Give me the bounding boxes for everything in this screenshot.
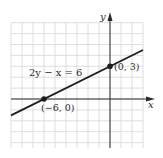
x-axis-label: x: [148, 99, 154, 110]
point-marker: [41, 96, 47, 102]
equation-label: 2y − x = 6: [29, 67, 83, 78]
grid-lines: [11, 23, 143, 148]
y-axis-label: y: [99, 11, 106, 22]
point-label: (−6, 0): [41, 102, 75, 113]
point-label: (0, 3): [114, 61, 140, 72]
coordinate-plane: x y (−6, 0)(0, 3) 2y − x = 6: [0, 0, 163, 158]
point-marker: [107, 64, 113, 70]
y-axis-arrow-icon: [108, 12, 113, 21]
